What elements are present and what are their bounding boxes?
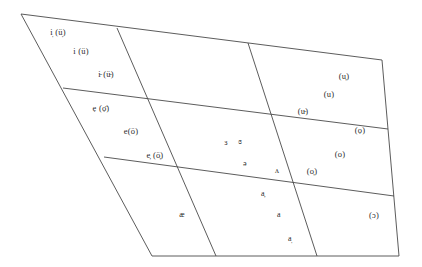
central-to-back-divider — [248, 43, 317, 256]
vowel-label-close-mid-back: (o) — [335, 150, 346, 159]
vowel-label-close-back: (u) — [324, 90, 335, 99]
vowel-label-open-central-raised: a̦ — [261, 190, 265, 198]
vowel-label-mid-central-unrounded: ɜ — [224, 139, 228, 147]
vowel-label-close-mid-front-raised: ẹ (ọ̈) — [93, 104, 110, 113]
vowel-label-close-back-lowered: (u̵) — [298, 107, 309, 116]
vowel-label-open-front: æ — [179, 211, 185, 219]
vowel-label-schwa: ə — [243, 160, 247, 168]
vowel-quadrilateral-diagram: i̩ (ü̩)i (ü)i̵ (ü̵)ẹ (ọ̈)e(ö)e̦ (ö̦)æɜɞə… — [0, 0, 422, 267]
vowel-label-close-front-lowered: i̵ (ü̵) — [98, 70, 113, 79]
vowel-label-close-mid-back-lowered: (o̦) — [307, 167, 318, 176]
close-to-mid-divider — [63, 88, 388, 129]
vowel-label-close-back-raised: (u̦) — [339, 72, 350, 81]
vowel-label-open-central: a — [277, 211, 281, 219]
vowel-label-close-mid-back-raised: (ọ) — [355, 126, 366, 135]
vowel-label-open-mid-back-unrounded: ʌ — [275, 167, 279, 175]
vowel-label-close-mid-front-lowered: e̦ (ö̦) — [147, 151, 164, 160]
vowel-label-close-front: i (ü) — [73, 47, 88, 56]
vowel-label-open-mid-back-rounded: (ɔ) — [369, 211, 379, 220]
vowel-label-close-front-raised: i̩ (ü̩) — [50, 28, 65, 37]
vowel-label-open-central-lowered: a̩ — [288, 235, 292, 243]
front-to-central-divider — [117, 28, 216, 256]
mid-to-open-divider — [104, 157, 394, 196]
vowel-label-mid-central-rounded: ɞ — [238, 138, 242, 146]
vowel-label-close-mid-front: e(ö) — [124, 127, 138, 136]
